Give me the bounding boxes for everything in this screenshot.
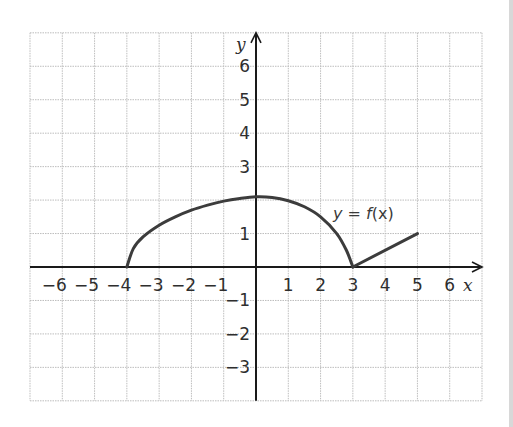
x-tick-label: 5 — [412, 275, 423, 295]
function-graph: −6−5−4−3−2−112345665431−1−2−3 x y y = f(… — [0, 0, 513, 427]
y-tick-label: 4 — [239, 123, 250, 143]
y-axis-label: y — [235, 34, 246, 54]
page-edge — [509, 0, 513, 427]
axes — [30, 33, 482, 401]
y-tick-label: 1 — [239, 224, 250, 244]
x-tick-label: 6 — [444, 275, 455, 295]
y-tick-label: 5 — [239, 90, 250, 110]
y-tick-label: −2 — [225, 324, 250, 344]
x-tick-label: 4 — [380, 275, 391, 295]
function-label: y = f(x) — [332, 204, 394, 223]
x-tick-label: −3 — [139, 275, 164, 295]
x-tick-label: 1 — [283, 275, 294, 295]
x-tick-label: 3 — [347, 275, 358, 295]
x-tick-label: −5 — [74, 275, 99, 295]
x-tick-label: −6 — [42, 275, 67, 295]
y-tick-label: 3 — [239, 157, 250, 177]
y-tick-label: −1 — [225, 290, 250, 310]
x-axis-label: x — [463, 275, 473, 295]
x-tick-label: −4 — [106, 275, 131, 295]
y-tick-label: 6 — [239, 56, 250, 76]
x-tick-label: 2 — [315, 275, 326, 295]
y-tick-label: −3 — [225, 357, 250, 377]
x-tick-label: −2 — [171, 275, 196, 295]
